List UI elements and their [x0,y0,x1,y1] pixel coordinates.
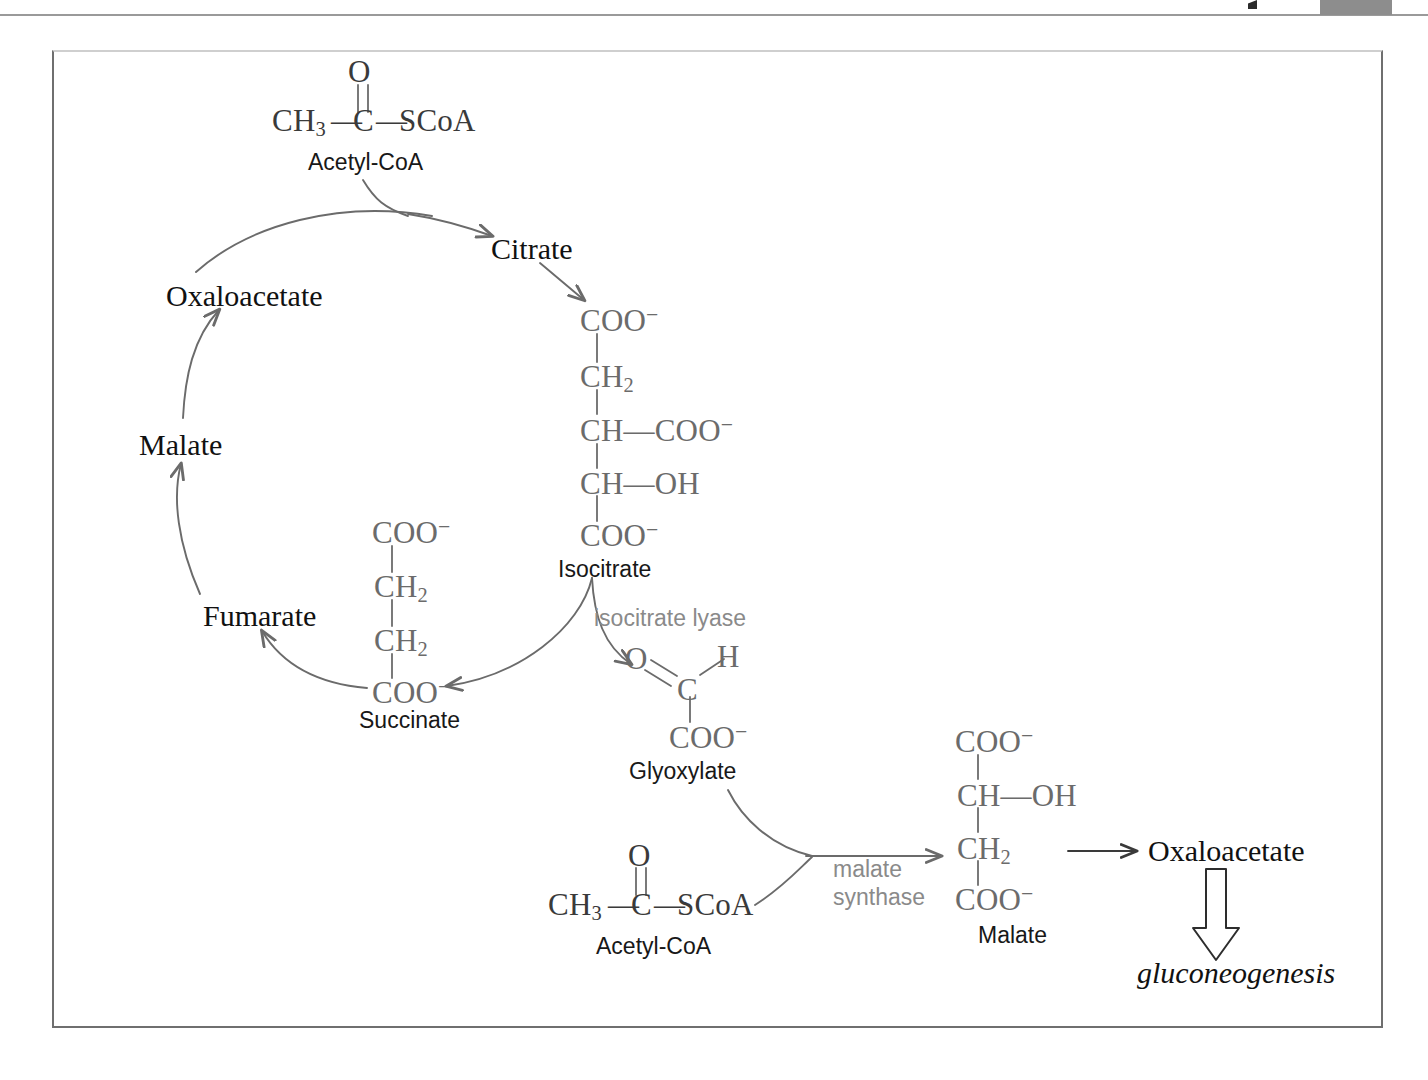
malate-row-4-text: COO [955,882,1021,917]
isocitrate-row-3-branch: —COO [623,413,720,448]
caption-acetyl-coa-bottom: Acetyl-CoA [596,935,711,958]
caption-malate-structure: Malate [978,924,1047,947]
node-fumarate: Fumarate [203,601,316,631]
isocitrate-row-2: CH2 [580,361,634,395]
figure-page: O CH3 — C — SCoA Acetyl-CoA Citrate Oxal… [0,0,1428,1080]
succinate-row-1-charge: − [438,515,450,539]
glyoxylate-carboxylate-text: COO [669,720,735,755]
enzyme-malate-synthase: malate synthase [833,855,925,911]
acetyl-coa-top-methyl-sub: 3 [315,118,325,140]
header-glyph-fragment-icon [1248,0,1257,9]
isocitrate-row-3-branch-charge: − [721,413,733,437]
caption-succinate: Succinate [359,709,460,732]
malate-row-1-charge: − [1021,724,1033,748]
succinate-row-3-sub: 2 [417,638,427,660]
malate-row-1: COO− [955,726,1034,757]
isocitrate-row-5-text: COO [580,518,646,553]
glyoxylate-carbon: C [677,674,698,705]
isocitrate-row-1: COO− [580,305,659,336]
malate-row-4: COO− [955,884,1034,915]
isocitrate-row-4-text: CH [580,466,623,501]
succinate-row-2: CH2 [374,571,428,605]
malate-row-2: CH—OH [957,780,1077,811]
succinate-row-4-charge: − [438,675,450,699]
figure-border [52,50,1383,1028]
page-header-rule [0,14,1428,16]
glyoxylate-carboxylate: COO− [669,722,748,753]
caption-glyoxylate: Glyoxylate [629,760,736,783]
isocitrate-row-3: CH—COO− [580,415,733,446]
output-gluconeogenesis: gluconeogenesis [1137,958,1335,988]
succinate-row-2-sub: 2 [417,584,427,606]
acetyl-coa-bottom-carbonyl-oxygen: O [628,840,651,871]
succinate-row-4-text: COO [372,675,438,710]
acetyl-coa-top-carbon: C [353,105,374,136]
acetyl-coa-bottom-carbon: C [631,889,652,920]
malate-row-3-text: CH [957,831,1000,866]
succinate-row-4: COO− [372,677,451,708]
enzyme-isocitrate-lyase: isocitrate lyase [594,604,746,632]
isocitrate-row-1-charge: − [646,303,658,327]
node-citrate: Citrate [491,234,573,264]
node-oxaloacetate: Oxaloacetate [166,281,323,311]
acetyl-coa-top-methyl-text: CH [272,103,315,138]
acetyl-coa-bottom-methyl-text: CH [548,887,591,922]
acetyl-coa-bottom-methyl: CH3 [548,889,602,923]
acetyl-coa-top-carbonyl-oxygen: O [348,56,371,87]
caption-isocitrate: Isocitrate [558,558,651,581]
isocitrate-row-5-charge: − [646,518,658,542]
glyoxylate-hydrogen: H [717,641,740,672]
glyoxylate-oxygen: O [625,643,648,674]
malate-row-2-branch: —OH [1000,778,1076,813]
succinate-row-3-text: CH [374,623,417,658]
node-oxaloacetate-output: Oxaloacetate [1148,836,1305,866]
caption-acetyl-coa-top: Acetyl-CoA [308,151,423,174]
isocitrate-row-1-text: COO [580,303,646,338]
malate-row-2-text: CH [957,778,1000,813]
isocitrate-row-2-text: CH [580,359,623,394]
acetyl-coa-top-thioester: SCoA [399,105,476,136]
page-edge-tab [1320,0,1392,15]
malate-row-4-charge: − [1021,882,1033,906]
isocitrate-row-2-sub: 2 [623,374,633,396]
node-malate: Malate [139,430,222,460]
isocitrate-row-4: CH—OH [580,468,700,499]
succinate-row-2-text: CH [374,569,417,604]
acetyl-coa-top-methyl: CH3 [272,105,326,139]
glyoxylate-carboxylate-charge: − [735,720,747,744]
acetyl-coa-bottom-methyl-sub: 3 [591,902,601,924]
isocitrate-row-5: COO− [580,520,659,551]
isocitrate-row-3-text: CH [580,413,623,448]
succinate-row-3: CH2 [374,625,428,659]
succinate-row-1-text: COO [372,515,438,550]
succinate-row-1: COO− [372,517,451,548]
malate-row-3: CH2 [957,833,1011,867]
malate-row-1-text: COO [955,724,1021,759]
isocitrate-row-4-branch: —OH [623,466,699,501]
acetyl-coa-bottom-thioester: SCoA [677,889,754,920]
malate-row-3-sub: 2 [1000,846,1010,868]
